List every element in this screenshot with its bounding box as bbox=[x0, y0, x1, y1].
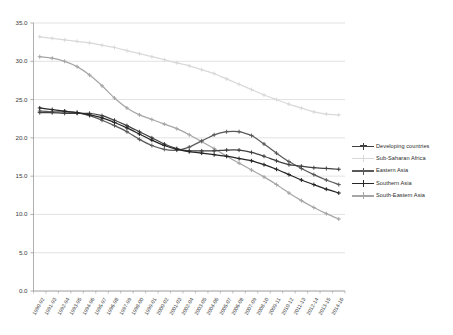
data-point-marker bbox=[125, 49, 129, 53]
series-southern-asia bbox=[38, 106, 341, 195]
data-point-marker bbox=[137, 113, 141, 117]
data-point-marker bbox=[38, 106, 42, 110]
y-axis-tick-label: 25.0 bbox=[0, 96, 28, 103]
data-point-marker bbox=[262, 163, 266, 167]
data-point-marker bbox=[312, 183, 316, 187]
data-point-marker bbox=[324, 112, 328, 116]
data-point-marker bbox=[237, 82, 241, 86]
data-point-marker bbox=[274, 159, 278, 163]
data-point-marker bbox=[337, 113, 341, 117]
y-axis-tick-label: 10.0 bbox=[0, 210, 28, 217]
data-point-marker bbox=[287, 102, 291, 106]
data-point-marker bbox=[337, 217, 341, 221]
data-point-marker bbox=[212, 72, 216, 76]
legend-item[interactable]: Southern Asia bbox=[352, 177, 453, 189]
data-point-marker bbox=[337, 191, 341, 195]
data-point-marker bbox=[337, 183, 341, 187]
data-point-marker bbox=[63, 59, 67, 63]
legend-item-label: Sub-Saharan Africa bbox=[376, 155, 426, 162]
y-axis-tick-label: 30.0 bbox=[0, 57, 28, 64]
y-axis-tick-label: 20.0 bbox=[0, 134, 28, 141]
y-axis-tick-label: 5.0 bbox=[0, 249, 28, 256]
data-point-marker bbox=[324, 178, 328, 182]
plus-marker-icon bbox=[352, 154, 374, 164]
line-chart: 35.030.025.020.015.010.05.00.0 1990-9219… bbox=[0, 0, 453, 335]
y-axis-tick-label: 15.0 bbox=[0, 172, 28, 179]
legend-item-label: Developing countries bbox=[376, 143, 429, 150]
legend-item-label: South-Eastern Asia bbox=[376, 192, 425, 199]
data-point-marker bbox=[50, 36, 54, 40]
data-point-marker bbox=[112, 46, 116, 50]
plus-marker-icon bbox=[352, 166, 374, 176]
legend-item-label: Southern Asia bbox=[376, 180, 412, 187]
data-point-marker bbox=[75, 111, 79, 115]
data-point-marker bbox=[225, 77, 229, 81]
data-point-marker bbox=[88, 41, 92, 45]
data-point-marker bbox=[299, 178, 303, 182]
data-point-marker bbox=[63, 38, 67, 42]
plus-marker-icon bbox=[352, 141, 374, 151]
data-point-marker bbox=[250, 88, 254, 92]
data-point-marker bbox=[150, 55, 154, 59]
data-point-marker bbox=[200, 151, 204, 155]
data-point-marker bbox=[225, 148, 229, 152]
y-axis-tick-label: 0.0 bbox=[0, 287, 28, 294]
series-sub-saharan-africa bbox=[38, 35, 341, 117]
data-point-marker bbox=[324, 166, 328, 170]
data-point-marker bbox=[137, 52, 141, 56]
series-line bbox=[40, 113, 339, 170]
data-point-marker bbox=[162, 122, 166, 126]
data-point-marker bbox=[299, 106, 303, 110]
data-point-marker bbox=[250, 159, 254, 163]
data-point-marker bbox=[274, 98, 278, 102]
data-point-marker bbox=[50, 56, 54, 60]
data-point-marker bbox=[212, 133, 216, 137]
data-point-marker bbox=[312, 166, 316, 170]
legend-item-label: Eastern Asia bbox=[376, 167, 408, 174]
axis-lines bbox=[31, 23, 346, 291]
data-point-marker bbox=[100, 43, 104, 47]
data-point-marker bbox=[287, 163, 291, 167]
data-point-marker bbox=[150, 117, 154, 121]
data-point-marker bbox=[237, 148, 241, 152]
chart-legend: Developing countriesSub-Saharan AfricaEa… bbox=[352, 140, 453, 202]
series-developing-countries bbox=[38, 111, 341, 172]
series-eastern-asia bbox=[38, 109, 341, 187]
data-point-marker bbox=[274, 167, 278, 171]
gridlines bbox=[34, 23, 346, 291]
data-point-marker bbox=[38, 55, 42, 59]
data-series-group bbox=[38, 35, 341, 221]
data-point-marker bbox=[150, 144, 154, 148]
data-point-marker bbox=[324, 212, 328, 216]
data-point-marker bbox=[262, 154, 266, 158]
data-point-marker bbox=[225, 130, 229, 134]
plus-marker-icon bbox=[352, 178, 374, 188]
data-point-marker bbox=[175, 127, 179, 131]
legend-item[interactable]: Eastern Asia bbox=[352, 165, 453, 177]
series-line bbox=[40, 37, 339, 115]
data-point-marker bbox=[212, 153, 216, 157]
data-point-marker bbox=[337, 167, 341, 171]
data-point-marker bbox=[250, 150, 254, 154]
data-point-marker bbox=[38, 35, 42, 39]
data-point-marker bbox=[187, 145, 191, 149]
data-point-marker bbox=[200, 68, 204, 72]
legend-item[interactable]: South-Eastern Asia bbox=[352, 190, 453, 202]
data-point-marker bbox=[262, 93, 266, 97]
legend-item[interactable]: Developing countries bbox=[352, 140, 453, 152]
data-point-marker bbox=[187, 64, 191, 68]
data-point-marker bbox=[324, 187, 328, 191]
plus-marker-icon bbox=[352, 191, 374, 201]
data-point-marker bbox=[162, 147, 166, 151]
data-point-marker bbox=[237, 157, 241, 161]
y-axis-tick-label: 35.0 bbox=[0, 19, 28, 26]
data-point-marker bbox=[50, 108, 54, 112]
legend-item[interactable]: Sub-Saharan Africa bbox=[352, 152, 453, 164]
data-point-marker bbox=[312, 110, 316, 114]
data-point-marker bbox=[237, 130, 241, 134]
data-point-marker bbox=[75, 39, 79, 43]
